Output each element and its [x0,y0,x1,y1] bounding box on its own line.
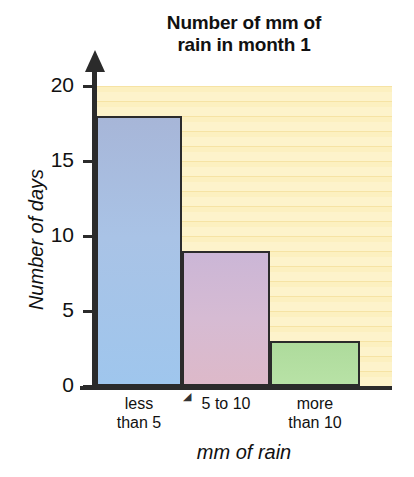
tick-speck: ◢ [183,392,189,401]
bar-less-than-5 [96,116,182,386]
x-category-label: more than 10 [270,394,360,432]
plot-area [96,86,392,386]
x-axis-title: mm of rain [96,441,392,464]
bar-more-than-10 [270,341,360,386]
x-category-label: 5 to 10 [182,394,270,413]
y-tick-mark [83,85,94,88]
y-axis-title: Number of days [25,120,48,360]
bar-5-to-10 [182,251,270,386]
y-tick-mark [83,310,94,313]
x-axis-line [80,386,392,390]
y-tick-mark [83,235,94,238]
bar-chart: Number of mm of rain in month 1 0 5 10 1… [0,0,414,477]
y-tick-label: 0 [28,373,74,397]
x-category-label: less than 5 [96,394,182,432]
y-tick-mark [83,160,94,163]
y-tick-mark [83,385,94,388]
y-axis-arrow-icon [85,50,105,72]
y-tick-label: 20 [28,73,74,97]
chart-title: Number of mm of rain in month 1 [96,12,392,56]
